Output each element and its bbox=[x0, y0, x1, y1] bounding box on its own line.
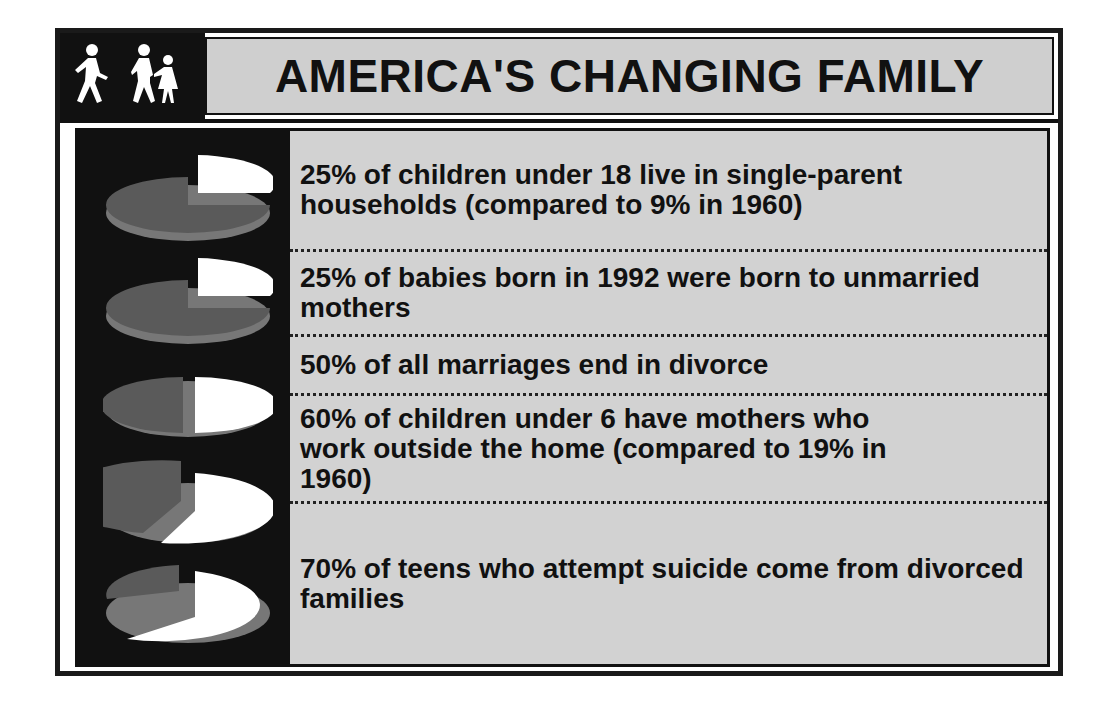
fact-row: 50% of all marriages end in divorce bbox=[290, 337, 1047, 393]
facts-list: 25% of children under 18 live in single-… bbox=[290, 131, 1047, 664]
header-icon-band bbox=[60, 33, 205, 119]
header-divider bbox=[60, 119, 1058, 123]
fact-row: 25% of babies born in 1992 were born to … bbox=[290, 252, 1047, 334]
pie-chart-60-working-mothers bbox=[103, 451, 273, 551]
walking-person-icon bbox=[68, 43, 112, 105]
fact-text: 70% of teens who attempt suicide come fr… bbox=[300, 554, 1047, 614]
fact-text: 50% of all marriages end in divorce bbox=[300, 350, 768, 380]
infographic-frame: AMERICA'S CHANGING FAMILY 25% of childre… bbox=[55, 28, 1063, 676]
pie-chart-50-divorce bbox=[103, 361, 273, 441]
parent-child-walking-icon bbox=[126, 43, 186, 105]
pie-chart-25-unmarried bbox=[103, 256, 273, 346]
fact-row: 70% of teens who attempt suicide come fr… bbox=[290, 504, 1047, 664]
pie-column bbox=[78, 131, 290, 664]
page-title: AMERICA'S CHANGING FAMILY bbox=[275, 49, 984, 103]
fact-row: 60% of children under 6 have mothers who… bbox=[290, 396, 1047, 501]
fact-text: 25% of children under 18 live in single-… bbox=[300, 160, 1047, 220]
pie-chart-25-single-parent bbox=[103, 153, 273, 243]
pie-chart-70-teen-suicide bbox=[103, 551, 273, 651]
fact-row: 25% of children under 18 live in single-… bbox=[290, 131, 1047, 249]
fact-text: 60% of children under 6 have mothers who… bbox=[300, 404, 940, 494]
facts-panel: 25% of children under 18 live in single-… bbox=[75, 128, 1050, 667]
fact-text: 25% of babies born in 1992 were born to … bbox=[300, 263, 1047, 323]
title-box: AMERICA'S CHANGING FAMILY bbox=[205, 37, 1054, 115]
